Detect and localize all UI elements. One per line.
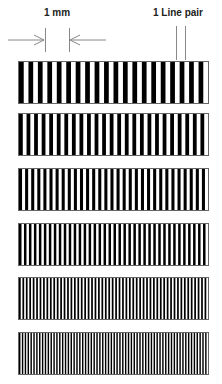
black-bar xyxy=(163,114,167,155)
black-bar xyxy=(19,333,20,374)
black-bar xyxy=(168,333,169,374)
black-bar xyxy=(191,278,193,319)
bar-pattern-block-6 xyxy=(18,332,209,375)
black-bar xyxy=(153,278,155,319)
black-bar xyxy=(167,278,169,319)
black-bar xyxy=(57,62,62,103)
black-bar xyxy=(168,224,170,265)
black-bar xyxy=(125,333,126,374)
black-bar xyxy=(24,224,26,265)
black-bar xyxy=(25,333,26,374)
black-bar xyxy=(202,333,203,374)
black-bar xyxy=(42,333,43,374)
black-bar xyxy=(87,114,91,155)
black-bar xyxy=(66,62,71,103)
black-bar xyxy=(51,333,52,374)
black-bar xyxy=(28,333,29,374)
black-bar xyxy=(57,114,61,155)
black-bar xyxy=(39,333,40,374)
black-bar xyxy=(123,169,126,210)
black-bar xyxy=(179,333,180,374)
bar-pattern-block-1 xyxy=(18,61,209,104)
black-bar xyxy=(200,114,204,155)
black-bar xyxy=(190,169,193,210)
black-bar xyxy=(188,333,189,374)
black-bar xyxy=(153,169,156,210)
black-bar xyxy=(49,224,51,265)
black-bar xyxy=(173,224,175,265)
black-bar xyxy=(199,333,200,374)
black-bar xyxy=(22,278,24,319)
black-bar xyxy=(119,278,121,319)
black-bar xyxy=(115,278,117,319)
black-bar xyxy=(205,333,206,374)
black-bar xyxy=(59,333,60,374)
black-bar xyxy=(108,278,110,319)
black-bar xyxy=(64,224,66,265)
black-bar xyxy=(101,278,103,319)
black-bar xyxy=(49,114,53,155)
black-bar xyxy=(183,224,185,265)
right-arrow-icon xyxy=(70,35,106,45)
black-bar xyxy=(36,333,37,374)
black-bar xyxy=(114,333,115,374)
scale-label: 1 mm xyxy=(44,7,70,18)
black-bar xyxy=(143,224,145,265)
black-bar xyxy=(136,278,138,319)
black-bar xyxy=(19,169,22,210)
black-bar xyxy=(27,114,31,155)
black-bar xyxy=(185,333,186,374)
black-bar xyxy=(84,224,86,265)
black-bar xyxy=(112,278,114,319)
black-bar xyxy=(39,224,41,265)
black-bar xyxy=(143,278,145,319)
black-bar xyxy=(125,114,129,155)
black-bar xyxy=(178,169,181,210)
black-bar xyxy=(84,278,86,319)
black-bar xyxy=(88,333,89,374)
black-bar xyxy=(201,278,203,319)
black-bar xyxy=(199,62,204,103)
black-bar xyxy=(141,169,144,210)
black-bar xyxy=(110,114,114,155)
bar-pattern-block-2 xyxy=(18,113,209,156)
black-bar xyxy=(53,333,54,374)
black-bar xyxy=(33,278,35,319)
black-bar xyxy=(148,333,149,374)
black-bar xyxy=(34,114,38,155)
black-bar xyxy=(139,333,140,374)
black-bar xyxy=(43,169,46,210)
black-bar xyxy=(128,333,129,374)
black-bar xyxy=(102,114,106,155)
black-bar xyxy=(178,224,180,265)
black-bar xyxy=(95,114,99,155)
black-bar xyxy=(68,333,69,374)
black-bar xyxy=(26,278,28,319)
black-bar xyxy=(48,333,49,374)
black-bar xyxy=(147,169,150,210)
black-bar xyxy=(161,62,166,103)
black-bar xyxy=(132,62,137,103)
black-bar xyxy=(64,114,68,155)
black-bar xyxy=(197,333,198,374)
black-bar xyxy=(110,169,113,210)
black-bar xyxy=(93,333,94,374)
black-bar xyxy=(79,114,83,155)
black-bar xyxy=(68,169,71,210)
black-bar xyxy=(59,224,61,265)
black-bar xyxy=(122,278,124,319)
black-bar xyxy=(198,224,200,265)
black-bar xyxy=(174,278,176,319)
black-bar xyxy=(92,169,95,210)
black-bar xyxy=(42,114,46,155)
black-bar xyxy=(180,62,185,103)
black-bar xyxy=(158,224,160,265)
black-bar xyxy=(98,169,101,210)
black-bar xyxy=(148,114,152,155)
black-bar xyxy=(203,224,205,265)
black-bar xyxy=(34,224,36,265)
black-bar xyxy=(153,224,155,265)
black-bar xyxy=(79,224,81,265)
black-bar xyxy=(91,333,92,374)
black-bar xyxy=(117,169,120,210)
